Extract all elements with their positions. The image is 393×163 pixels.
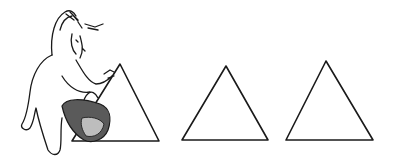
bag	[62, 92, 110, 141]
triangle-group	[72, 61, 373, 141]
figure-body	[22, 55, 62, 155]
illustration	[0, 0, 393, 163]
figure-face	[71, 34, 85, 58]
triangle-2	[182, 66, 268, 140]
triangle-3	[286, 61, 373, 140]
figure-hair	[66, 12, 103, 30]
